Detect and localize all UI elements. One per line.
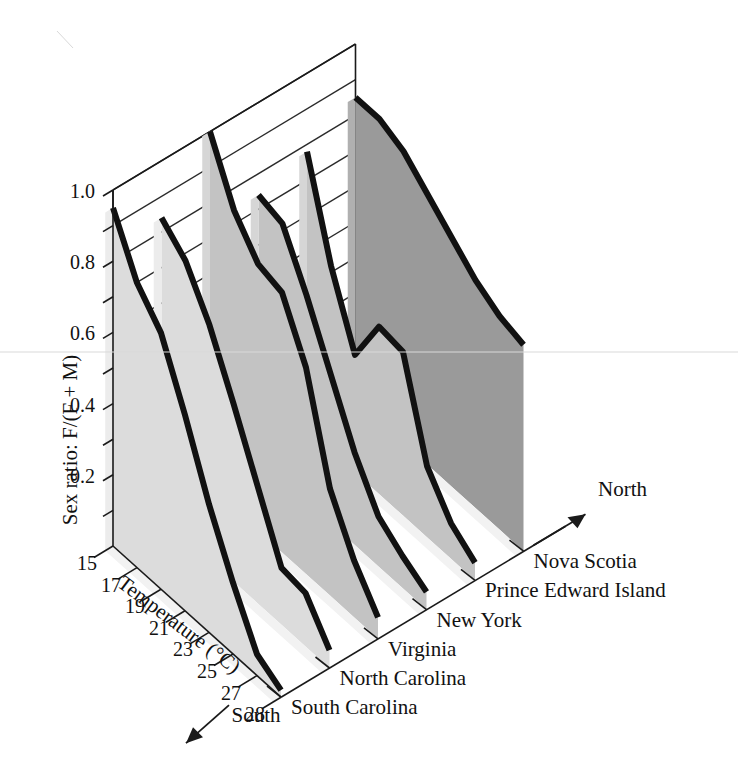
category-label: North Carolina bbox=[340, 666, 467, 690]
direction-label-south: South bbox=[231, 703, 281, 727]
y-axis-tick-label: 1.0 bbox=[70, 180, 95, 202]
y-axis-title: Sex ratio: F/(F + M) bbox=[58, 355, 82, 526]
direction-label-north: North bbox=[598, 477, 647, 501]
category-label: New York bbox=[437, 608, 523, 632]
category-label: South Carolina bbox=[291, 695, 418, 719]
x-axis-tick-label: 27 bbox=[221, 682, 241, 704]
chart-figure: 0.20.40.60.81.0 1517192123252728 South C… bbox=[0, 0, 738, 767]
ribbon-left-side bbox=[105, 208, 113, 551]
x-axis-tick-label: 15 bbox=[77, 552, 97, 574]
y-axis-tick-label: 0.8 bbox=[70, 251, 95, 273]
category-label: Virginia bbox=[388, 637, 457, 661]
chart-canvas: 0.20.40.60.81.0 1517192123252728 South C… bbox=[0, 0, 738, 767]
category-label: Nova Scotia bbox=[534, 549, 638, 573]
y-axis-tick-label: 0.6 bbox=[70, 322, 95, 344]
category-label: Prince Edward Island bbox=[485, 578, 666, 602]
